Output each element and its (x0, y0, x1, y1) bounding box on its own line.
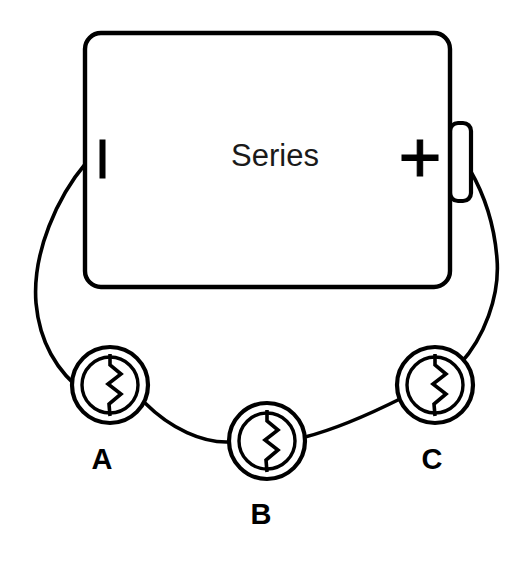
resistor-c-label: C (422, 443, 443, 475)
plus-vertical-bar (417, 140, 423, 176)
battery-label: Series (231, 138, 319, 173)
negative-terminal-mark (100, 140, 105, 178)
wire-negative-to-a (36, 163, 86, 394)
resistor-a-label: A (92, 443, 113, 475)
resistor-b-label: B (251, 498, 272, 530)
resistor-b[interactable]: B (229, 403, 305, 530)
resistor-c[interactable]: C (397, 347, 473, 475)
wire-a-to-b (145, 403, 229, 442)
battery-positive-terminal-nub (450, 123, 471, 201)
circuit-diagram: Series A B C (0, 0, 530, 566)
circuit-canvas: Series A B C (0, 0, 530, 566)
resistor-a[interactable]: A (72, 347, 148, 475)
wire-b-to-c (305, 398, 402, 437)
